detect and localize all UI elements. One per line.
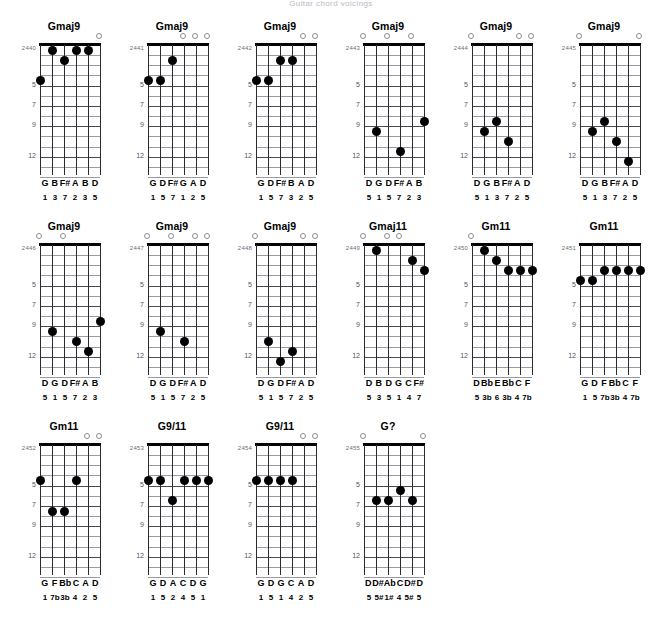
finger-dot[interactable] [276,357,285,366]
chord-diagram-2449[interactable]: Gmaj11244957912DBDGCF#535147 [334,218,442,418]
chord-diagram-2440[interactable]: Gmaj9244057912GBF#ABD137235 [10,18,118,218]
finger-dot[interactable] [252,476,261,485]
finger-dot[interactable] [528,266,537,275]
finger-dot[interactable] [276,56,285,65]
degree-label: 3b [60,592,70,603]
finger-dot[interactable] [48,507,57,516]
finger-dot[interactable] [504,266,513,275]
finger-dot[interactable] [600,266,609,275]
finger-dot[interactable] [408,496,417,505]
finger-dot[interactable] [60,56,69,65]
finger-dot[interactable] [288,347,297,356]
string-line [520,45,521,175]
finger-dot[interactable] [156,76,165,85]
finger-dot[interactable] [576,276,585,285]
finger-dot[interactable] [252,76,261,85]
finger-dot[interactable] [396,486,405,495]
finger-dot[interactable] [612,137,621,146]
finger-dot[interactable] [612,266,621,275]
finger-dot[interactable] [144,476,153,485]
chord-diagram-2451[interactable]: Gm11245157912GDFBbCF157b3b47b [550,218,658,418]
finger-dot[interactable] [72,337,81,346]
finger-dot[interactable] [144,76,153,85]
finger-dot[interactable] [72,46,81,55]
chord-diagram-2443[interactable]: Gmaj9244357912DGDF#AB515723 [334,18,442,218]
finger-dot[interactable] [420,266,429,275]
chord-diagram-2444[interactable]: Gmaj9244457912DGBF#AD513725 [442,18,550,218]
finger-dot[interactable] [156,327,165,336]
string-line [424,445,425,575]
finger-dot[interactable] [36,476,45,485]
finger-dot[interactable] [624,266,633,275]
finger-dot[interactable] [48,327,57,336]
finger-dot[interactable] [48,46,57,55]
fretboard[interactable]: 57912 [472,243,532,375]
finger-dot[interactable] [492,117,501,126]
fretboard[interactable]: 57912 [364,443,424,575]
finger-dot[interactable] [276,476,285,485]
chord-diagram-2445[interactable]: Gmaj9244557912DGBF#AD513725 [550,18,658,218]
finger-dot[interactable] [168,56,177,65]
finger-dot[interactable] [156,476,165,485]
finger-dot[interactable] [420,117,429,126]
chord-diagram-2441[interactable]: Gmaj9244157912GDF#GAD157125 [118,18,226,218]
finger-dot[interactable] [504,137,513,146]
fretboard[interactable]: 57912 [364,43,424,175]
finger-dot[interactable] [192,476,201,485]
finger-dot[interactable] [588,276,597,285]
finger-dot[interactable] [264,76,273,85]
finger-dot[interactable] [60,507,69,516]
fretboard[interactable]: 57912 [256,243,316,375]
finger-dot[interactable] [84,46,93,55]
finger-dot[interactable] [636,266,645,275]
chord-diagram-2442[interactable]: Gmaj9244257912GDF#BAD157325 [226,18,334,218]
finger-dot[interactable] [492,256,501,265]
finger-dot[interactable] [480,246,489,255]
chord-diagram-2454[interactable]: G9/11245457912GDGCAD151425 [226,418,334,618]
fretboard[interactable]: 57912 [148,243,208,375]
fretboard[interactable]: 57912 [472,43,532,175]
finger-dot[interactable] [96,317,105,326]
chord-diagram-2455[interactable]: G?245557912DD#AbCD#D55#1#45#5 [334,418,442,618]
finger-dot[interactable] [372,127,381,136]
finger-dot[interactable] [180,476,189,485]
fretboard[interactable]: 57912 [256,43,316,175]
finger-dot[interactable] [372,246,381,255]
string-line [376,245,377,375]
finger-dot[interactable] [168,496,177,505]
fretboard[interactable]: 57912 [580,243,640,375]
finger-dot[interactable] [384,496,393,505]
finger-dot[interactable] [264,337,273,346]
fretboard[interactable]: 57912 [256,443,316,575]
finger-dot[interactable] [288,476,297,485]
finger-dot[interactable] [372,496,381,505]
finger-dot[interactable] [264,476,273,485]
fretboard[interactable]: 57912 [364,243,424,375]
finger-dot[interactable] [600,117,609,126]
finger-dot[interactable] [84,347,93,356]
chord-diagram-2446[interactable]: Gmaj9244657912DGDF#AB515723 [10,218,118,418]
finger-dot[interactable] [396,147,405,156]
finger-dot[interactable] [72,476,81,485]
chord-diagram-2450[interactable]: Gm11245057912DBbEBbCF53b63b47b [442,218,550,418]
finger-dot[interactable] [408,256,417,265]
fret-line [40,357,100,358]
finger-dot[interactable] [588,127,597,136]
finger-dot[interactable] [624,157,633,166]
finger-dot[interactable] [204,476,213,485]
chord-diagram-2453[interactable]: G9/11245357912GDACDG152451 [118,418,226,618]
finger-dot[interactable] [480,127,489,136]
fretboard[interactable]: 57912 [580,43,640,175]
finger-dot[interactable] [180,337,189,346]
chord-diagram-2448[interactable]: Gmaj9244857912DGDF#AD515725 [226,218,334,418]
finger-dot[interactable] [516,266,525,275]
chord-diagram-2447[interactable]: Gmaj9244757912DGDF#AD515725 [118,218,226,418]
fretboard[interactable]: 57912 [40,443,100,575]
fretboard[interactable]: 57912 [148,443,208,575]
finger-dot[interactable] [288,56,297,65]
chord-diagram-2452[interactable]: Gm11245257912GFBbCAD17b3b425 [10,418,118,618]
fretboard[interactable]: 57912 [40,243,100,375]
fretboard[interactable]: 57912 [148,43,208,175]
finger-dot[interactable] [36,76,45,85]
fretboard[interactable]: 57912 [40,43,100,175]
